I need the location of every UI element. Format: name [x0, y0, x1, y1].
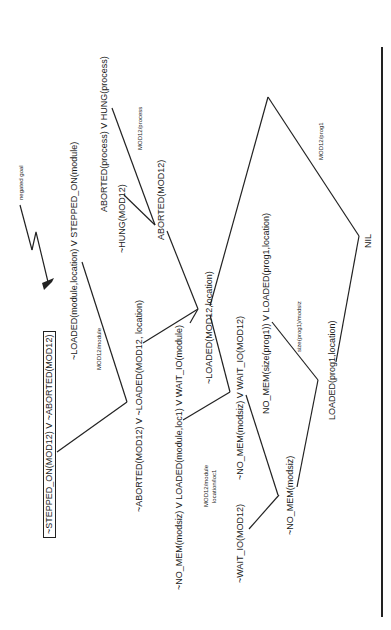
negated-goal-pointer-line — [20, 205, 32, 250]
substitution-s5: MOD12/prog1 — [318, 122, 324, 160]
edge-c4-c7 — [167, 231, 198, 309]
clause-c1: ~LOADED(module,location) V STEPPED_ON(mo… — [70, 142, 79, 360]
edge-c1-c5 — [82, 262, 127, 402]
clause-c6: ~NO_MEM(modsiz) V LOADED(module,loc1) V … — [175, 325, 184, 590]
clause-c5: ~ABORTED(MOD12) V ~LOADED(MOD12, locatio… — [135, 300, 144, 512]
clause-c10: ~NO_MEM(modsiz) — [286, 456, 295, 535]
clause-c3: ~HUNG(MOD12) — [118, 184, 127, 253]
goal-clause: ~STEPPED_ON(MOD12) V ~ABORTED(MOD12) — [43, 331, 56, 538]
clause-c2: ABORTED(process) V HUNG(process) — [100, 56, 109, 212]
edge-c12-nil — [336, 236, 359, 362]
clause-nil: NIL — [364, 234, 373, 248]
edge-c5-c7 — [143, 309, 198, 343]
edge-c10-c12 — [297, 380, 318, 487]
clause-c4: ABORTED(MOD12) — [157, 160, 166, 240]
clause-c7: ~LOADED(MOD12,location) — [205, 271, 214, 384]
negated-goal-zigzag — [32, 232, 48, 282]
edge-c11-c12 — [272, 322, 318, 380]
edge-c3-c4 — [124, 195, 155, 225]
resolution-tree-edges — [0, 0, 391, 630]
negated-goal-annotation: negated goal — [18, 165, 24, 200]
substitution-s1: MOD12/module — [96, 328, 102, 370]
edge-goal-c5 — [57, 402, 127, 452]
substitution-s3b: location/loc1 — [211, 470, 217, 503]
clause-c11: NO_MEM(size(prog1)) V LOADED(prog1,locat… — [262, 213, 271, 414]
substitution-s2: MOD12/process — [137, 107, 143, 150]
substitution-s3a: MOD12/module — [203, 465, 209, 507]
edge-c7-top — [210, 97, 268, 306]
clause-c9: ~WAIT_IO(MOD12) — [236, 504, 245, 583]
clause-c8: ~NO_MEM(modsiz) V WAIT_IO(MOD12) — [236, 316, 245, 480]
edge-c9-c10 — [249, 495, 279, 529]
edge-c6-c8 — [183, 392, 230, 420]
clause-c12: LOADED(prog1,location) — [328, 320, 337, 420]
edge-top-nil — [268, 97, 359, 236]
substitution-s4: size(prog1)/modsiz — [296, 301, 302, 352]
